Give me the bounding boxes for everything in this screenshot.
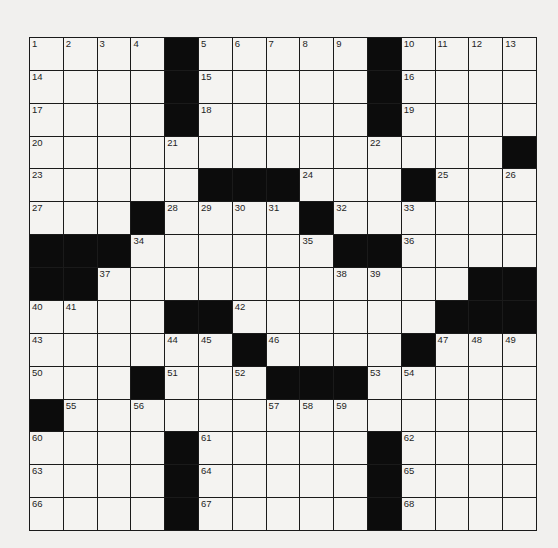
grid-cell[interactable]: [131, 169, 164, 201]
grid-cell[interactable]: 10: [402, 38, 435, 70]
grid-cell[interactable]: 60: [30, 432, 63, 464]
grid-cell[interactable]: [98, 465, 131, 497]
grid-cell[interactable]: 35: [300, 235, 333, 267]
grid-cell[interactable]: 7: [267, 38, 300, 70]
grid-cell[interactable]: [131, 268, 164, 300]
grid-cell[interactable]: [334, 432, 367, 464]
grid-cell[interactable]: [267, 137, 300, 169]
grid-cell[interactable]: [199, 137, 232, 169]
grid-cell[interactable]: [368, 400, 401, 432]
grid-cell[interactable]: 29: [199, 202, 232, 234]
grid-cell[interactable]: [469, 498, 502, 530]
grid-cell[interactable]: 49: [503, 334, 536, 366]
grid-cell[interactable]: 32: [334, 202, 367, 234]
grid-cell[interactable]: 1: [30, 38, 63, 70]
grid-cell[interactable]: [469, 137, 502, 169]
grid-cell[interactable]: [131, 301, 164, 333]
grid-cell[interactable]: [131, 334, 164, 366]
grid-cell[interactable]: [503, 202, 536, 234]
grid-cell[interactable]: 58: [300, 400, 333, 432]
grid-cell[interactable]: [267, 235, 300, 267]
grid-cell[interactable]: 12: [469, 38, 502, 70]
grid-cell[interactable]: 63: [30, 465, 63, 497]
grid-cell[interactable]: [131, 104, 164, 136]
grid-cell[interactable]: [233, 432, 266, 464]
grid-cell[interactable]: 21: [165, 137, 198, 169]
grid-cell[interactable]: 14: [30, 71, 63, 103]
grid-cell[interactable]: [131, 432, 164, 464]
grid-cell[interactable]: 54: [402, 367, 435, 399]
grid-cell[interactable]: 50: [30, 367, 63, 399]
grid-cell[interactable]: [233, 400, 266, 432]
grid-cell[interactable]: [64, 137, 97, 169]
grid-cell[interactable]: [368, 301, 401, 333]
grid-cell[interactable]: [469, 235, 502, 267]
grid-cell[interactable]: [402, 268, 435, 300]
grid-cell[interactable]: 19: [402, 104, 435, 136]
grid-cell[interactable]: [165, 169, 198, 201]
grid-cell[interactable]: 52: [233, 367, 266, 399]
grid-cell[interactable]: [64, 465, 97, 497]
grid-cell[interactable]: [165, 268, 198, 300]
grid-cell[interactable]: [436, 235, 469, 267]
grid-cell[interactable]: [334, 301, 367, 333]
grid-cell[interactable]: 17: [30, 104, 63, 136]
grid-cell[interactable]: [98, 202, 131, 234]
grid-cell[interactable]: [368, 202, 401, 234]
grid-cell[interactable]: [165, 400, 198, 432]
grid-cell[interactable]: [469, 104, 502, 136]
grid-cell[interactable]: [436, 465, 469, 497]
grid-cell[interactable]: 53: [368, 367, 401, 399]
grid-cell[interactable]: [402, 400, 435, 432]
grid-cell[interactable]: [436, 268, 469, 300]
grid-cell[interactable]: [199, 400, 232, 432]
grid-cell[interactable]: [300, 268, 333, 300]
grid-cell[interactable]: 42: [233, 301, 266, 333]
grid-cell[interactable]: [131, 71, 164, 103]
grid-cell[interactable]: [131, 137, 164, 169]
grid-cell[interactable]: [334, 169, 367, 201]
grid-cell[interactable]: 38: [334, 268, 367, 300]
grid-cell[interactable]: 64: [199, 465, 232, 497]
grid-cell[interactable]: 40: [30, 301, 63, 333]
grid-cell[interactable]: 26: [503, 169, 536, 201]
grid-cell[interactable]: 20: [30, 137, 63, 169]
grid-cell[interactable]: [334, 137, 367, 169]
grid-cell[interactable]: [503, 400, 536, 432]
grid-cell[interactable]: 11: [436, 38, 469, 70]
grid-cell[interactable]: [64, 498, 97, 530]
grid-cell[interactable]: 3: [98, 38, 131, 70]
grid-cell[interactable]: [64, 334, 97, 366]
grid-cell[interactable]: 41: [64, 301, 97, 333]
grid-cell[interactable]: 43: [30, 334, 63, 366]
grid-cell[interactable]: [267, 498, 300, 530]
grid-cell[interactable]: [199, 235, 232, 267]
grid-cell[interactable]: [436, 137, 469, 169]
grid-cell[interactable]: [165, 235, 198, 267]
grid-cell[interactable]: 24: [300, 169, 333, 201]
grid-cell[interactable]: [503, 432, 536, 464]
grid-cell[interactable]: [402, 137, 435, 169]
grid-cell[interactable]: [300, 137, 333, 169]
grid-cell[interactable]: 5: [199, 38, 232, 70]
grid-cell[interactable]: [233, 498, 266, 530]
grid-cell[interactable]: 31: [267, 202, 300, 234]
grid-cell[interactable]: 18: [199, 104, 232, 136]
grid-cell[interactable]: [267, 104, 300, 136]
grid-cell[interactable]: [469, 169, 502, 201]
grid-cell[interactable]: [436, 367, 469, 399]
grid-cell[interactable]: 67: [199, 498, 232, 530]
grid-cell[interactable]: [267, 71, 300, 103]
grid-cell[interactable]: [64, 367, 97, 399]
grid-cell[interactable]: [64, 169, 97, 201]
grid-cell[interactable]: [368, 169, 401, 201]
grid-cell[interactable]: 2: [64, 38, 97, 70]
grid-cell[interactable]: 44: [165, 334, 198, 366]
grid-cell[interactable]: 39: [368, 268, 401, 300]
grid-cell[interactable]: 37: [98, 268, 131, 300]
grid-cell[interactable]: 23: [30, 169, 63, 201]
grid-cell[interactable]: 55: [64, 400, 97, 432]
grid-cell[interactable]: [199, 268, 232, 300]
grid-cell[interactable]: 57: [267, 400, 300, 432]
grid-cell[interactable]: [233, 137, 266, 169]
